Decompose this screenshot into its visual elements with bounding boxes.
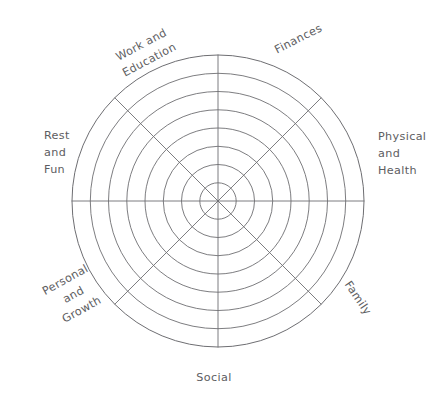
- axis-label-line: Social: [196, 371, 231, 384]
- grid-spoke-2: [218, 98, 321, 201]
- axis-label-line: Family: [342, 279, 374, 318]
- grid-spoke-6: [115, 201, 218, 304]
- wheel-of-life-diagram: FinancesPhysicalandHealthFamilySocialPer…: [0, 0, 447, 404]
- axis-label-line: Fun: [44, 163, 65, 176]
- axis-label-line: Rest: [44, 129, 70, 142]
- axis-label-finances: Finances: [273, 21, 325, 56]
- axis-label-line: Health: [378, 164, 417, 177]
- grid-spoke-8: [115, 98, 218, 201]
- grid-spoke-4: [218, 201, 321, 304]
- axis-labels: FinancesPhysicalandHealthFamilySocialPer…: [40, 21, 426, 384]
- axis-label-rest-and-fun: RestandFun: [44, 129, 70, 176]
- axis-label-line: and: [378, 147, 400, 160]
- wheel-of-life-canvas: FinancesPhysicalandHealthFamilySocialPer…: [0, 0, 447, 404]
- axis-label-work-and-education: Work andEducation: [112, 25, 178, 79]
- grid-spokes: [72, 55, 364, 347]
- axis-label-physical-and-health: PhysicalandHealth: [378, 130, 426, 177]
- axis-label-line: and: [44, 146, 66, 159]
- axis-label-family: Family: [342, 279, 374, 318]
- axis-label-personal-and-growth: PersonalandGrowth: [40, 262, 107, 328]
- axis-label-line: Finances: [273, 21, 325, 56]
- axis-label-line: Physical: [378, 130, 426, 143]
- axis-label-social: Social: [196, 371, 231, 384]
